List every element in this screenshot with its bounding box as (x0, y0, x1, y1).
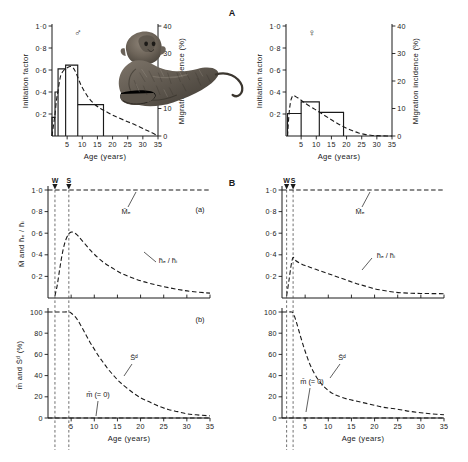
age-tick-label: 35 (154, 140, 163, 149)
Sd-curve (282, 312, 444, 415)
weaning-marker-arrow (52, 184, 57, 190)
bottom-x-tick-label: 15 (113, 422, 122, 431)
bottom-x-tick-label: 30 (417, 422, 426, 431)
Mf-leader-b (362, 192, 370, 207)
bottom-y-tick-label: 60 (268, 350, 277, 359)
age-tick-label: 15 (327, 140, 336, 149)
maturity-marker-label: S (66, 177, 71, 184)
initiation-tick-label: 0·2 (270, 110, 281, 119)
mid-y-tick-label: 0·8 (266, 207, 277, 216)
figure-root: 0·20·40·60·81·00102030405101520253035Ini… (0, 0, 468, 462)
migration-tick-label: 0 (397, 132, 401, 141)
bottom-age-axis-title: Age (years) (342, 434, 385, 443)
weaning-marker-arrow (284, 184, 289, 190)
initiation-tick-label: 0·8 (36, 44, 47, 53)
initiation-tick-label: 0·4 (270, 88, 281, 97)
bottom-x-tick-label: 25 (159, 422, 168, 431)
migration-histogram (288, 102, 344, 136)
mid-y-tick-label: 0·4 (32, 250, 43, 259)
mid-y-tick-label: 0·6 (266, 229, 277, 238)
mid-y-tick-label: 0·8 (32, 207, 43, 216)
hf-hi-label-b: h̄ₑ / h̄ᵢ (377, 251, 395, 260)
age-tick-label: 30 (139, 140, 148, 149)
m-zero-label-b: m̄ (= 0) (300, 377, 324, 386)
age-tick-label: 5 (299, 140, 303, 149)
age-tick-label: 30 (373, 140, 382, 149)
initiation-axis-title: Initiation factor (255, 54, 264, 109)
panel-letter-A: A (229, 8, 236, 18)
bottom-y-tick-label: 80 (34, 329, 43, 338)
bottom-x-tick-label: 5 (303, 422, 307, 431)
maturity-marker-arrow (291, 184, 296, 190)
m-zero-label: m̄ (= 0) (86, 390, 110, 399)
Sd-leader (124, 364, 132, 376)
bottom-x-tick-label: 20 (370, 422, 379, 431)
age-tick-label: 25 (357, 140, 366, 149)
migration-tick-label: 40 (163, 22, 172, 31)
Sd-leader-b (330, 364, 340, 378)
mid-y-tick-label: 1·0 (266, 186, 277, 195)
sex-symbol: ♀ (308, 27, 316, 38)
migration-tick-label: 40 (397, 22, 406, 31)
bottom-y-tick-label: 60 (34, 350, 43, 359)
bottom-x-tick-label: 15 (347, 422, 356, 431)
weaning-marker-label: W (52, 177, 59, 184)
age-tick-label: 35 (388, 140, 397, 149)
bottom-y-tick-label: 20 (34, 392, 43, 401)
bottom-x-tick-label: 30 (183, 422, 192, 431)
bottom-y-tick-label: 0 (272, 414, 276, 423)
figure-svg: 0·20·40·60·81·00102030405101520253035Ini… (0, 0, 468, 462)
initiation-tick-label: 0·6 (270, 66, 281, 75)
bottom-y-tick-label: 100 (264, 308, 277, 317)
bottom-x-tick-label: 5 (69, 422, 73, 431)
initiation-tick-label: 1·0 (36, 22, 47, 31)
maturity-marker-arrow (66, 184, 71, 190)
initiation-tick-label: 1·0 (270, 22, 281, 31)
age-axis-title: Age (years) (84, 152, 127, 161)
Sd-label: S̄ᵈ (130, 353, 138, 362)
age-tick-label: 10 (312, 140, 321, 149)
mid-y-tick-label: 1·0 (32, 186, 43, 195)
subpanel-label-b: (b) (195, 315, 204, 324)
initiation-axis-title: Initiation factor (21, 54, 30, 109)
maturity-marker-label: S (291, 177, 296, 184)
bottom-y-tick-label: 0 (38, 414, 42, 423)
migration-fit-curve (288, 95, 392, 136)
initiation-tick-label: 0·2 (36, 110, 47, 119)
migration-tick-label: 20 (397, 77, 406, 86)
bottom-y-tick-label: 80 (268, 329, 277, 338)
migration-tick-label: 10 (163, 104, 172, 113)
age-axis-title: Age (years) (318, 152, 361, 161)
mid-y-tick-label: 0·4 (266, 250, 277, 259)
bottom-y-tick-label: 20 (268, 392, 277, 401)
hf-hi-label: h̄ₑ / h̄ᵢ (159, 256, 177, 265)
bottom-y-tick-label: 100 (30, 308, 43, 317)
age-tick-label: 25 (123, 140, 132, 149)
hf-hi-curve (55, 232, 210, 296)
bottom-x-tick-label: 10 (324, 422, 333, 431)
initiation-tick-label: 0·4 (36, 88, 47, 97)
hf-hi-leader-b (362, 258, 372, 270)
bottom-age-axis-title: Age (years) (108, 434, 151, 443)
bottom-x-tick-label: 35 (440, 422, 449, 431)
Sd-curve (48, 312, 210, 416)
hf-hi-curve (287, 257, 444, 295)
migration-axis-title: Migration incidence (%) (411, 38, 420, 124)
age-tick-label: 20 (108, 140, 117, 149)
mid-y-tick-label: 0·6 (32, 229, 43, 238)
mid-y-axis-title: M̄ and h̄ₑ / h̄ᵢ (17, 221, 26, 267)
Mf-label: M̄ₑ (122, 207, 131, 216)
m-zero-leader-b (306, 388, 310, 412)
Sd-label-b: S̄ᵈ (338, 353, 346, 362)
mid-y-tick-label: 0·2 (266, 272, 277, 281)
bottom-x-tick-label: 10 (90, 422, 99, 431)
panel-letter-B: B (229, 178, 236, 188)
bottom-x-tick-label: 35 (206, 422, 215, 431)
mid-y-tick-label: 0·2 (32, 272, 43, 281)
bottom-x-tick-label: 20 (136, 422, 145, 431)
age-tick-label: 20 (342, 140, 351, 149)
bottom-x-tick-label: 25 (393, 422, 402, 431)
bottom-y-tick-label: 40 (268, 371, 277, 380)
m-zero-leader (96, 401, 98, 416)
subpanel-label: (a) (195, 205, 204, 214)
